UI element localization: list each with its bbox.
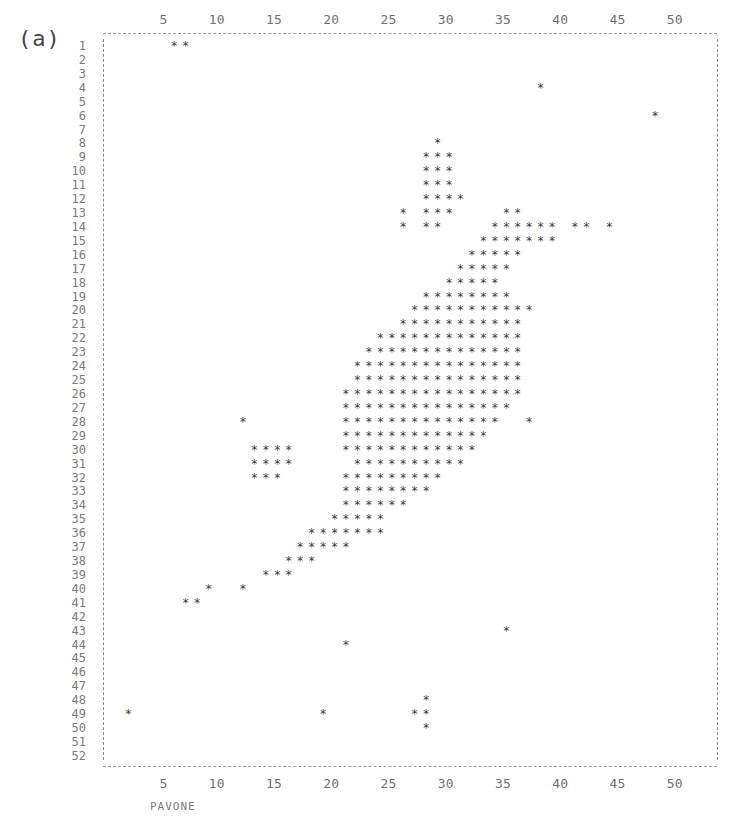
data-point: * [432,166,443,177]
data-point: * [512,305,523,316]
y-tick: 16 [46,249,86,261]
data-point: * [455,278,466,289]
y-tick: 3 [46,68,86,80]
data-point: * [180,41,191,52]
y-tick: 30 [46,444,86,456]
data-point: * [489,417,500,428]
data-point: * [340,473,351,484]
y-tick: 33 [46,485,86,497]
data-point: * [432,459,443,470]
data-point: * [501,333,512,344]
y-tick: 27 [46,402,86,414]
data-point: * [455,389,466,400]
x-tick-top: 10 [209,12,225,27]
data-point: * [524,236,535,247]
frame-bottom [103,766,717,767]
data-point: * [466,305,477,316]
y-tick: 34 [46,499,86,511]
data-point: * [386,403,397,414]
data-point: * [398,403,409,414]
data-point: * [466,292,477,303]
data-point: * [432,292,443,303]
data-point: * [547,236,558,247]
y-tick: 24 [46,360,86,372]
data-point: * [501,626,512,637]
data-point: * [409,305,420,316]
data-point: * [398,445,409,456]
data-point: * [363,500,374,511]
data-point: * [421,222,432,233]
y-tick: 37 [46,541,86,553]
data-point: * [421,305,432,316]
y-tick: 11 [46,179,86,191]
data-point: * [444,319,455,330]
frame-right [717,39,718,760]
data-point: * [455,333,466,344]
data-point: * [260,473,271,484]
x-tick-bottom: 5 [159,776,167,791]
data-point: * [421,375,432,386]
data-point: * [466,431,477,442]
x-tick-top: 25 [381,12,397,27]
data-point: * [352,389,363,400]
data-point: * [650,111,661,122]
data-point: * [409,347,420,358]
data-point: * [398,486,409,497]
y-tick: 23 [46,346,86,358]
data-point: * [352,459,363,470]
x-tick-bottom: 10 [209,776,225,791]
data-point: * [455,319,466,330]
data-point: * [432,389,443,400]
data-point: * [386,333,397,344]
data-point: * [375,431,386,442]
x-tick-top: 30 [438,12,454,27]
data-point: * [432,445,443,456]
data-point: * [386,473,397,484]
data-point: * [306,542,317,553]
data-point: * [272,445,283,456]
data-point: * [489,305,500,316]
data-point: * [478,278,489,289]
data-point: * [444,194,455,205]
y-tick: 46 [46,666,86,678]
data-point: * [295,542,306,553]
data-point: * [501,347,512,358]
data-point: * [386,500,397,511]
data-point: * [524,417,535,428]
data-point: * [524,305,535,316]
data-point: * [306,556,317,567]
data-point: * [547,222,558,233]
data-point: * [386,389,397,400]
data-point: * [375,486,386,497]
data-point: * [512,389,523,400]
data-point: * [260,445,271,456]
data-point: * [501,292,512,303]
y-tick: 48 [46,694,86,706]
data-point: * [398,208,409,219]
data-point: * [386,486,397,497]
data-point: * [432,208,443,219]
data-point: * [409,375,420,386]
data-point: * [421,180,432,191]
data-point: * [375,375,386,386]
y-tick: 52 [46,750,86,762]
data-point: * [501,389,512,400]
data-point: * [237,417,248,428]
data-point: * [375,445,386,456]
y-tick: 12 [46,193,86,205]
data-point: * [501,236,512,247]
data-point: * [432,305,443,316]
data-point: * [386,347,397,358]
data-point: * [340,431,351,442]
data-point: * [352,375,363,386]
data-point: * [524,222,535,233]
data-point: * [363,417,374,428]
data-point: * [398,222,409,233]
data-point: * [375,459,386,470]
data-point: * [421,319,432,330]
y-tick: 15 [46,235,86,247]
data-point: * [421,194,432,205]
data-point: * [192,598,203,609]
data-point: * [340,417,351,428]
data-point: * [512,236,523,247]
